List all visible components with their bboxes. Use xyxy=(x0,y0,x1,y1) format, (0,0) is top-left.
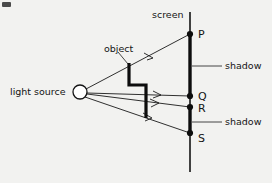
label-shadow-upper: shadow xyxy=(225,60,262,71)
object-shape xyxy=(129,63,146,118)
point-label-s: S xyxy=(198,132,205,145)
ray-diagram-svg: light source object screen shadow shadow… xyxy=(0,0,272,183)
label-screen: screen xyxy=(152,9,184,20)
label-light-source: light source xyxy=(10,86,66,97)
ray-to-q-arrowhead xyxy=(153,91,161,98)
ray-to-s xyxy=(85,97,190,133)
point-dot-q xyxy=(187,93,193,99)
corner-mark xyxy=(2,2,11,7)
point-dot-r xyxy=(187,104,193,110)
point-dot-s xyxy=(187,130,193,136)
point-label-r: R xyxy=(198,102,206,115)
point-label-p: P xyxy=(198,28,205,41)
label-object: object xyxy=(104,43,134,54)
label-shadow-lower: shadow xyxy=(225,116,262,127)
ray-to-p xyxy=(86,34,190,89)
light-source-bulb xyxy=(73,85,87,99)
diagram-canvas: light source object screen shadow shadow… xyxy=(0,0,272,183)
point-dot-p xyxy=(187,31,193,37)
